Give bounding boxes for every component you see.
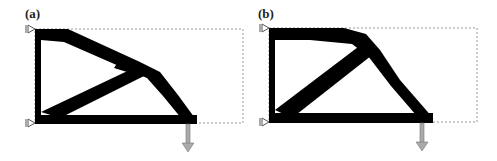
support-icon-top — [26, 25, 35, 33]
topology-diagram-a — [0, 0, 248, 161]
topology-diagram-b — [248, 0, 497, 161]
diagonal-strut-lower — [41, 66, 148, 118]
panel-a: (a) — [0, 0, 248, 161]
panel-b: (b) — [248, 0, 496, 161]
load-arrow-icon — [182, 124, 194, 152]
left-member — [269, 28, 275, 123]
load-arrow-icon — [416, 123, 428, 151]
left-member — [35, 29, 41, 124]
support-icon-bottom — [26, 119, 35, 127]
support-icon-bottom — [260, 118, 269, 126]
support-icon-top — [260, 24, 269, 32]
diagonal-strut — [275, 44, 376, 118]
